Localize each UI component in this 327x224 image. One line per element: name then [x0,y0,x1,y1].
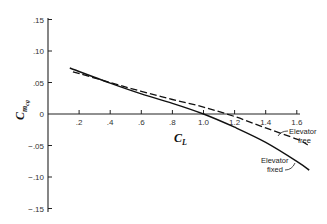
x-tick-label: .2 [76,118,83,127]
y-tick-label: .15 [33,16,45,25]
y-tick-label: −.10 [28,173,44,182]
chart: .15.10.050−.05−.10−.15 .2.4.6.81.01.21.4… [0,0,327,224]
y-tick-label: −.05 [28,142,44,151]
y-axis-title: Cmcg [13,100,30,120]
annotation-elevator-free-line1: Elevator [289,127,317,136]
x-tick-label: 1.4 [260,118,272,127]
y-tick-label: −.15 [28,205,44,214]
y-tick-label: .10 [33,47,45,56]
x-tick-label: .4 [107,118,114,127]
svg-text:Cmcg: Cmcg [13,100,30,120]
x-tick-label: .6 [138,118,145,127]
x-ticks: .2.4.6.81.01.21.41.6 [76,110,303,127]
annotation-elevator-fixed-line1: Elevator [261,156,289,165]
x-axis-title: CL [174,131,187,147]
x-tick-label: 1.6 [291,118,303,127]
y-tick-label: .05 [33,79,45,88]
x-tick-label: 1.0 [198,118,210,127]
series-elevator-fixed [70,68,309,170]
annotation-elevator-free-line2: free [298,136,311,145]
y-tick-label: 0 [40,110,45,119]
annotation-elevator-fixed-line2: fixed [267,165,283,174]
x-tick-label: .8 [169,118,176,127]
